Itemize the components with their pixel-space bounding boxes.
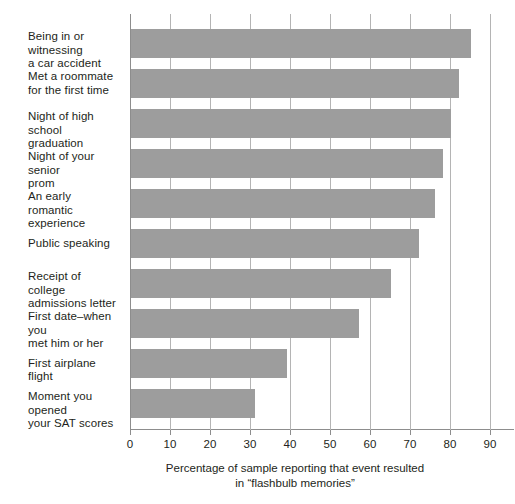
x-tick-40 — [290, 430, 291, 435]
x-tick-50 — [330, 430, 331, 435]
category-label-column: Being in or witnessinga car accidentMet … — [0, 14, 124, 430]
bar — [131, 309, 359, 338]
category-label: Receipt of collegeadmissions letter — [0, 270, 118, 311]
category-label-line: admissions letter — [28, 297, 118, 311]
x-axis: 0102030405060708090 — [130, 430, 490, 458]
x-tick-80 — [450, 430, 451, 435]
x-tick-label: 30 — [244, 437, 257, 451]
category-label: Public speaking — [0, 237, 118, 251]
category-label-line: Night of high school — [28, 110, 118, 137]
category-label: Met a roommatefor the first time — [0, 70, 118, 97]
x-tick-label: 40 — [284, 437, 297, 451]
x-tick-label: 80 — [444, 437, 457, 451]
category-label: Night of high schoolgraduation — [0, 110, 118, 151]
bar — [131, 29, 471, 58]
caption-line-2: in “flashbulb memories” — [95, 476, 495, 491]
caption-line-1: Percentage of sample reporting that even… — [95, 461, 495, 476]
category-label: First airplane flight — [0, 357, 118, 384]
category-label-line: Being in or witnessing — [28, 30, 118, 57]
x-tick-label: 20 — [204, 437, 217, 451]
chart-caption: Percentage of sample reporting that even… — [95, 461, 495, 491]
x-tick-30 — [250, 430, 251, 435]
bar — [131, 229, 419, 258]
x-tick-70 — [410, 430, 411, 435]
category-label: Night of your seniorprom — [0, 150, 118, 191]
gridline-90 — [490, 14, 491, 430]
category-label-line: your SAT scores — [28, 417, 118, 431]
category-label-line: for the first time — [28, 84, 118, 98]
category-label-line: Public speaking — [28, 237, 118, 251]
bar — [131, 189, 435, 218]
category-label-line: prom — [28, 177, 118, 191]
x-tick-60 — [370, 430, 371, 435]
x-tick-0 — [130, 430, 131, 435]
x-tick-label: 50 — [324, 437, 337, 451]
category-label-line: Met a roommate — [28, 70, 118, 84]
bar — [131, 349, 287, 378]
bar — [131, 269, 391, 298]
category-label: An early romanticexperience — [0, 190, 118, 231]
bar — [131, 109, 451, 138]
x-tick-label: 0 — [127, 437, 133, 451]
category-label: Being in or witnessinga car accident — [0, 30, 118, 71]
x-tick-label: 90 — [484, 437, 497, 451]
bar — [131, 389, 255, 418]
category-label: Moment you openedyour SAT scores — [0, 390, 118, 431]
category-label-line: First date–when you — [28, 310, 118, 337]
x-tick-label: 70 — [404, 437, 417, 451]
flashbulb-memories-bar-chart: Being in or witnessinga car accidentMet … — [0, 0, 515, 504]
plot-area — [130, 14, 490, 430]
category-label-line: experience — [28, 217, 118, 231]
category-label-line: a car accident — [28, 57, 118, 71]
category-label-line: Moment you opened — [28, 390, 118, 417]
bar — [131, 69, 459, 98]
category-label-line: Receipt of college — [28, 270, 118, 297]
category-label-line: graduation — [28, 137, 118, 151]
category-label-line: Night of your senior — [28, 150, 118, 177]
category-label-line: An early romantic — [28, 190, 118, 217]
x-tick-90 — [490, 430, 491, 435]
category-label-line: met him or her — [28, 337, 118, 351]
x-tick-label: 10 — [164, 437, 177, 451]
x-tick-label: 60 — [364, 437, 377, 451]
x-tick-10 — [170, 430, 171, 435]
x-tick-20 — [210, 430, 211, 435]
bar — [131, 149, 443, 178]
category-label-line: First airplane flight — [28, 357, 118, 384]
category-label: First date–when youmet him or her — [0, 310, 118, 351]
